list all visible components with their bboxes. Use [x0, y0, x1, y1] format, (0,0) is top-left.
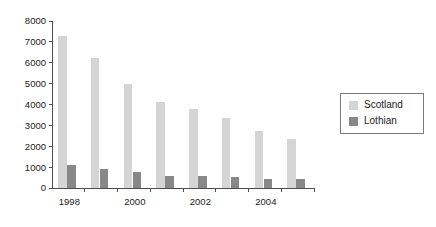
x-tick-label: 2002 [190, 196, 211, 207]
bar-scotland[interactable] [189, 109, 198, 188]
legend-label: Scotland [364, 99, 403, 110]
bar-lothian[interactable] [198, 176, 207, 188]
x-tick-label: 1998 [59, 196, 80, 207]
bar-lothian[interactable] [133, 172, 142, 188]
bar-scotland[interactable] [58, 36, 67, 188]
bar-lothian[interactable] [264, 179, 273, 188]
chart-canvas: 0100020003000400050006000700080001998200… [0, 0, 436, 227]
x-tick-label: 2004 [255, 196, 276, 207]
bar-group [58, 36, 76, 188]
bar-scotland[interactable] [156, 102, 165, 188]
y-tick-label: 8000 [25, 15, 46, 26]
bar-group [222, 118, 240, 188]
bar-chart-figure: 0100020003000400050006000700080001998200… [0, 0, 436, 227]
bar-group [189, 109, 207, 188]
legend-swatch [349, 117, 358, 126]
bar-group [287, 139, 305, 188]
bar-group [91, 58, 109, 188]
bar-group [255, 131, 273, 188]
y-tick-label: 4000 [25, 99, 46, 110]
legend-swatch [349, 101, 358, 110]
bar-scotland[interactable] [91, 58, 100, 188]
bar-scotland[interactable] [255, 131, 264, 188]
bar-lothian[interactable] [231, 177, 240, 188]
legend: ScotlandLothian [340, 93, 423, 133]
legend-label: Lothian [364, 115, 397, 126]
bar-group [156, 102, 174, 188]
y-tick-label: 5000 [25, 78, 46, 89]
x-tick-label: 2000 [124, 196, 145, 207]
y-tick-label: 3000 [25, 120, 46, 131]
bar-scotland[interactable] [222, 118, 231, 188]
bar-lothian[interactable] [296, 179, 305, 188]
y-tick-label: 0 [41, 182, 46, 193]
bar-group [124, 84, 142, 188]
bar-lothian[interactable] [100, 169, 109, 188]
y-tick-label: 2000 [25, 141, 46, 152]
bar-scotland[interactable] [124, 84, 133, 188]
y-tick-label: 1000 [25, 162, 46, 173]
y-tick-label: 6000 [25, 57, 46, 68]
y-tick-label: 7000 [25, 36, 46, 47]
bar-lothian[interactable] [165, 176, 174, 188]
bar-scotland[interactable] [287, 139, 296, 188]
bar-lothian[interactable] [67, 165, 76, 188]
